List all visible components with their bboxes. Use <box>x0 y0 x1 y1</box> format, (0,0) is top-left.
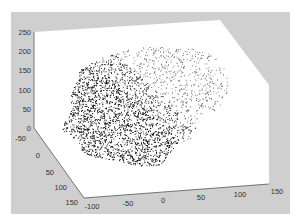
x-tick: -100 <box>84 202 99 211</box>
x-tick: 100 <box>234 190 247 199</box>
y-tick: 100 <box>54 183 67 192</box>
y-tick: 150 <box>65 198 78 207</box>
x-tick: -50 <box>123 199 134 208</box>
y-tick: 0 <box>36 151 40 160</box>
x-tick: 0 <box>161 196 165 205</box>
z-tick: 50 <box>23 105 31 114</box>
x-tick: 150 <box>271 187 284 196</box>
figure-canvas: 250 200 150 100 50 0 -50 0 50 100 150 -1… <box>0 0 298 224</box>
z-tick: 200 <box>18 47 31 56</box>
y-tick: -50 <box>15 134 26 143</box>
x-tick: 50 <box>197 193 205 202</box>
z-tick: 100 <box>18 86 31 95</box>
z-tick: 150 <box>18 66 31 75</box>
z-tick: 0 <box>27 124 31 133</box>
z-tick: 250 <box>18 28 31 37</box>
y-tick: 50 <box>46 168 54 177</box>
